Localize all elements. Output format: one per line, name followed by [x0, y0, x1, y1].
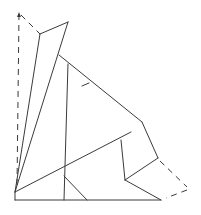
arrowhead-top-left — [17, 12, 21, 17]
left-long-line-b — [15, 22, 68, 192]
fold-diagram — [0, 0, 201, 215]
right-dashed-return — [166, 190, 187, 198]
square-bottom-edge — [125, 158, 158, 180]
short-diagonal — [64, 176, 87, 200]
top-dashed-diagonal — [21, 15, 40, 34]
long-diagonal — [15, 132, 131, 192]
square-right-edge — [142, 122, 158, 158]
left-long-line-a — [15, 34, 40, 192]
right-dashed-outer — [160, 161, 187, 187]
solid-lines — [15, 22, 161, 200]
top-cap-line — [40, 22, 68, 34]
dashed-lines — [17, 14, 187, 198]
left-dashed-vertical — [17, 14, 19, 186]
upper-diagonal — [59, 55, 142, 122]
tick-mark — [82, 83, 89, 86]
square-left-edge — [121, 140, 125, 180]
lower-right-edge — [125, 180, 161, 200]
